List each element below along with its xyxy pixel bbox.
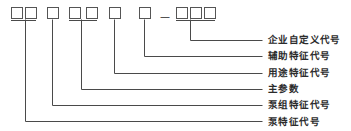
callout-pump-feature-code-label: 泵特征代号 xyxy=(268,117,320,127)
code-box[interactable] xyxy=(26,8,37,19)
leader-line xyxy=(26,20,263,122)
code-box[interactable] xyxy=(48,8,59,19)
leader-line xyxy=(191,20,263,41)
pump-model-designation-diagram: — 企业自定义代号辅助特征代号用途特征代号主参数泵组特征代号泵特征代号 xyxy=(0,0,351,131)
dash-separator: — xyxy=(160,12,170,22)
callout-enterprise-code-label: 企业自定义代号 xyxy=(268,35,341,45)
leader-line-group xyxy=(26,20,263,122)
code-box-group xyxy=(12,8,216,19)
code-box[interactable] xyxy=(177,8,188,19)
code-box[interactable] xyxy=(191,8,202,19)
leader-line xyxy=(145,20,263,57)
callout-purpose-feature-code-label: 用途特征代号 xyxy=(268,68,330,78)
leader-line xyxy=(82,20,263,90)
code-box[interactable] xyxy=(205,8,216,19)
diagram-canvas xyxy=(0,0,351,131)
code-box[interactable] xyxy=(87,8,98,19)
code-box[interactable] xyxy=(12,8,23,19)
callout-main-parameter-label: 主参数 xyxy=(268,84,299,94)
leader-line xyxy=(115,20,263,74)
code-box[interactable] xyxy=(140,8,151,19)
callout-pump-set-feature-code-label: 泵组特征代号 xyxy=(268,100,330,110)
callout-auxiliary-feature-code-label: 辅助特征代号 xyxy=(268,51,330,61)
leader-line xyxy=(53,20,263,106)
code-box[interactable] xyxy=(110,8,121,19)
code-box[interactable] xyxy=(70,8,81,19)
